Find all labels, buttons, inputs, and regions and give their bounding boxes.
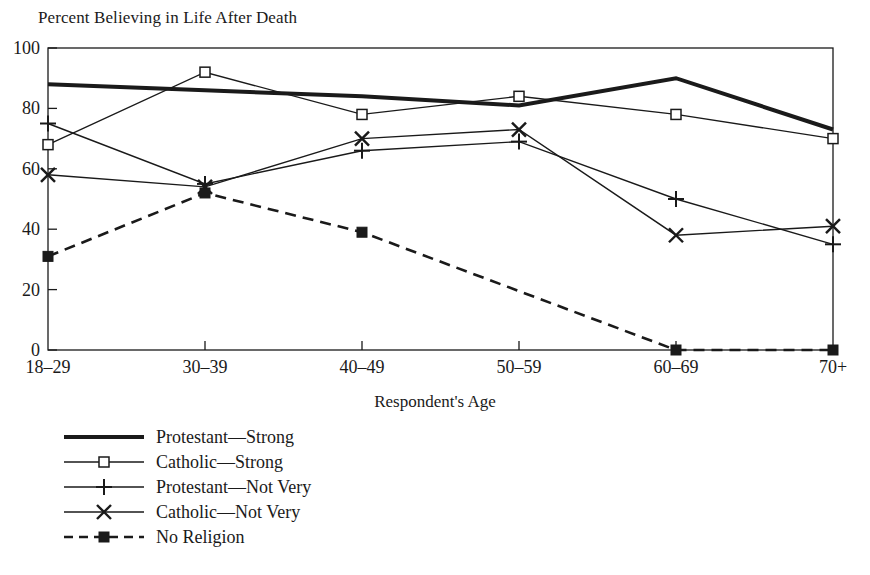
- x-axis-tick-label: 30–39: [160, 358, 250, 376]
- x-axis-tick-label: 40–49: [317, 358, 407, 376]
- x-axis-tick-label: 60–69: [631, 358, 721, 376]
- series-3: [41, 123, 840, 243]
- legend-label: No Religion: [156, 528, 245, 546]
- legend-item[interactable]: No Religion: [62, 524, 311, 549]
- legend-label: Catholic—Not Very: [156, 503, 300, 521]
- legend-line-sample: [62, 501, 146, 523]
- series-0: [48, 78, 833, 129]
- series-line: [48, 78, 833, 129]
- legend-line-sample: [62, 426, 146, 448]
- series-4: [43, 188, 838, 355]
- y-axis-tick-label: 20: [0, 281, 40, 299]
- x-axis-title: Respondent's Age: [0, 392, 870, 412]
- x-axis-tick-label: 70+: [788, 358, 870, 376]
- y-axis-tick-label: 80: [0, 99, 40, 117]
- legend-line-sample: [62, 451, 146, 473]
- legend-line-sample: [62, 526, 146, 548]
- legend-item[interactable]: Catholic—Not Very: [62, 499, 311, 524]
- plot-frame: [48, 48, 833, 350]
- x-axis-tick-label: 50–59: [474, 358, 564, 376]
- y-axis-tick-label: 40: [0, 220, 40, 238]
- y-axis-tick-label: 60: [0, 160, 40, 178]
- chart-legend: Protestant—StrongCatholic—StrongProtesta…: [62, 424, 311, 549]
- legend-label: Protestant—Strong: [156, 428, 294, 446]
- x-axis-tick-label: 18–29: [3, 358, 93, 376]
- y-axis-tick-label: 100: [0, 39, 40, 57]
- chart-figure: Percent Believing in Life After Death 02…: [0, 0, 870, 575]
- legend-item[interactable]: Catholic—Strong: [62, 449, 311, 474]
- series-line: [48, 193, 833, 350]
- plot-area: [0, 0, 870, 400]
- legend-item[interactable]: Protestant—Strong: [62, 424, 311, 449]
- legend-label: Protestant—Not Very: [156, 478, 311, 496]
- legend-line-sample: [62, 476, 146, 498]
- legend-item[interactable]: Protestant—Not Very: [62, 474, 311, 499]
- legend-label: Catholic—Strong: [156, 453, 283, 471]
- series-1: [43, 67, 838, 149]
- series-line: [48, 130, 833, 236]
